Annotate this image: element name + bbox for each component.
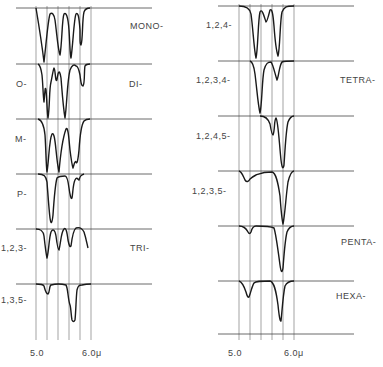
left-traces: [36, 8, 91, 322]
label-123: 1,2,3-: [1, 243, 27, 253]
x-tick-left-5: 5.0: [30, 348, 44, 358]
label-tri: TRI-: [130, 243, 150, 253]
label-1234: 1,2,3,4-: [196, 75, 231, 85]
label-tetra: TETRA-: [340, 75, 376, 85]
x-tick-left-6: 6.0μ: [82, 348, 102, 358]
trace-m: [38, 119, 90, 172]
trace-penta: [239, 226, 294, 272]
label-1235: 1,2,3,5-: [192, 186, 227, 196]
spectra-figure: [0, 0, 383, 367]
label-124: 1,2,4-: [206, 20, 232, 30]
label-di: DI-: [129, 79, 143, 89]
trace-1235: [239, 171, 294, 224]
x-tick-right-6: 6.0μ: [284, 348, 304, 358]
trace-135: [36, 284, 91, 322]
right-traces: [239, 6, 294, 321]
label-1245: 1,2,4,5-: [196, 131, 231, 141]
label-para: P-: [17, 189, 27, 199]
label-meta: M-: [15, 134, 27, 144]
trace-o-di: [38, 64, 90, 118]
trace-1245: [260, 116, 294, 168]
label-hexa: HEXA-: [336, 291, 366, 301]
label-135: 1,3,5-: [1, 295, 27, 305]
trace-mono: [36, 8, 90, 62]
trace-124: [239, 6, 294, 58]
trace-hexa: [239, 281, 294, 321]
trace-p: [38, 174, 84, 223]
label-ortho: O-: [16, 79, 27, 89]
x-tick-right-5: 5.0: [228, 348, 242, 358]
label-penta: PENTA-: [341, 237, 376, 247]
label-mono: MONO-: [130, 21, 164, 31]
